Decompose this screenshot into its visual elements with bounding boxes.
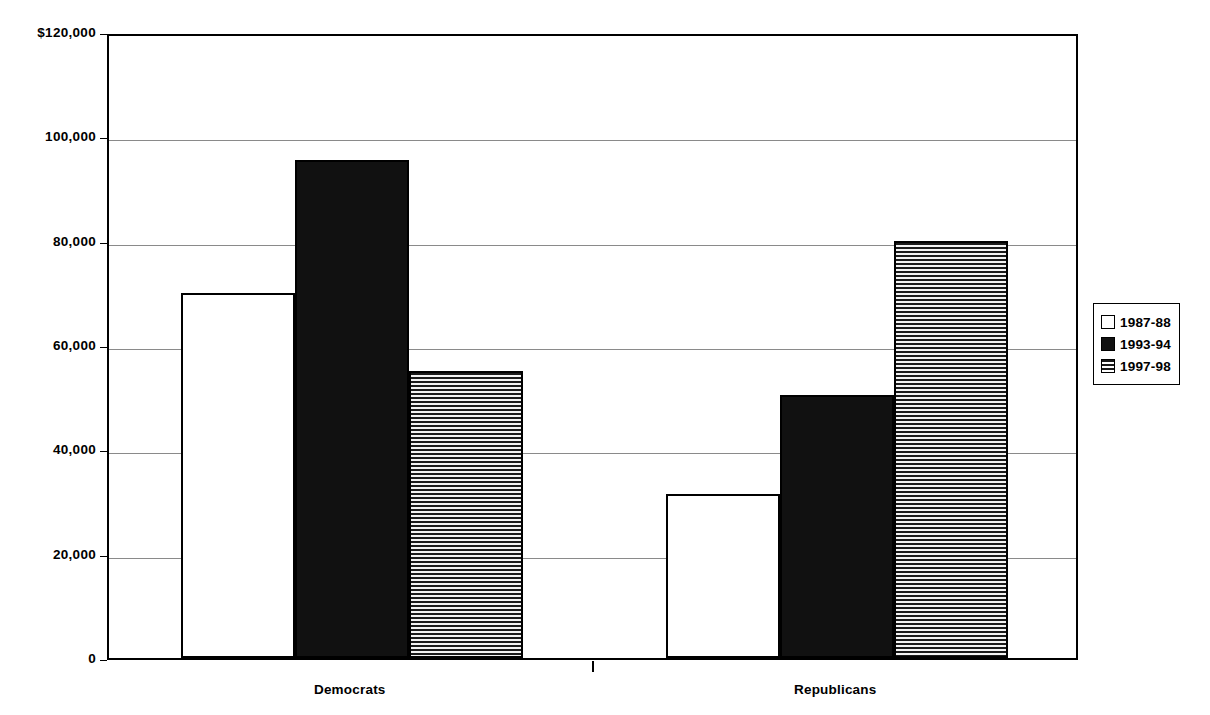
legend-item-1997-98[interactable]: 1997-98 <box>1101 355 1171 377</box>
bar-republicans-1987-88 <box>666 494 780 658</box>
bar-chart: 020,00040,00060,00080,000100,000$120,000… <box>0 0 1210 715</box>
y-axis-tick-label: 20,000 <box>0 547 96 562</box>
bar-democrats-1993-94 <box>295 160 409 658</box>
bar-republicans-1993-94 <box>780 395 894 658</box>
legend-item-1993-94[interactable]: 1993-94 <box>1101 333 1171 355</box>
y-axis-tick-label: 80,000 <box>0 234 96 249</box>
y-axis-tick-label: 60,000 <box>0 338 96 353</box>
category-label-republicans: Republicans <box>593 682 1079 697</box>
y-axis-tick-mark <box>100 556 107 557</box>
category-label-democrats: Democrats <box>107 682 593 697</box>
plot-area <box>107 34 1078 660</box>
bar-republicans-1997-98 <box>894 241 1008 658</box>
gridline <box>109 140 1076 141</box>
legend-label-1987-88: 1987-88 <box>1120 315 1171 330</box>
y-axis-tick-label: 100,000 <box>0 129 96 144</box>
y-axis-tick-mark <box>100 34 107 35</box>
bar-democrats-1987-88 <box>181 293 295 658</box>
category-divider-tick <box>592 661 594 672</box>
y-axis-tick-mark <box>100 660 107 661</box>
bar-democrats-1997-98 <box>409 371 523 658</box>
legend-label-1997-98: 1997-98 <box>1120 359 1171 374</box>
y-axis-tick-mark <box>100 451 107 452</box>
y-axis-tick-mark <box>100 138 107 139</box>
legend-swatch-icon-1987-88 <box>1101 315 1115 329</box>
legend-swatch-icon-1997-98 <box>1101 359 1115 373</box>
y-axis-tick-label: 40,000 <box>0 442 96 457</box>
legend-item-1987-88[interactable]: 1987-88 <box>1101 311 1171 333</box>
legend-label-1993-94: 1993-94 <box>1120 337 1171 352</box>
legend-swatch-icon-1993-94 <box>1101 337 1115 351</box>
y-axis-tick-mark <box>100 243 107 244</box>
y-axis-tick-label: 0 <box>0 651 96 666</box>
y-axis-tick-mark <box>100 347 107 348</box>
y-axis-tick-label: $120,000 <box>0 25 96 40</box>
legend: 1987-88 1993-94 1997-98 <box>1093 303 1180 385</box>
